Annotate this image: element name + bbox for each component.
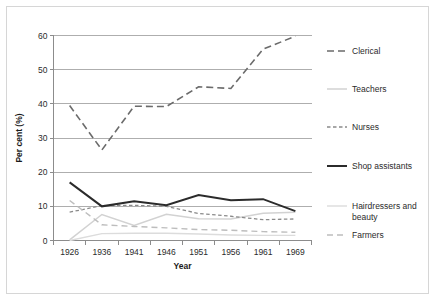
x-tick-label: 1936 — [92, 247, 111, 257]
x-tick-label: 1946 — [157, 247, 176, 257]
x-tick-label: 1926 — [60, 247, 79, 257]
x-axis-title: Year — [174, 261, 193, 271]
legend-label-teachers[interactable]: Teachers — [352, 84, 387, 94]
legend-label-hairdressers-and-beauty-line2[interactable]: beauty — [352, 212, 378, 222]
line-chart-plot: 0102030405060192619361941194619511956196… — [0, 0, 437, 302]
y-tick-label: 20 — [38, 167, 48, 177]
y-tick-label: 10 — [38, 201, 48, 211]
series-line-nurses — [70, 205, 296, 219]
legend-label-clerical[interactable]: Clerical — [352, 46, 380, 56]
legend-label-hairdressers-and-beauty[interactable]: Hairdressers and — [352, 201, 417, 211]
y-axis-title: Per cent (%) — [14, 113, 24, 162]
chart-figure: 0102030405060192619361941194619511956196… — [0, 0, 437, 302]
y-tick-label: 0 — [43, 236, 48, 246]
y-tick-label: 50 — [38, 65, 48, 75]
series-line-hairdressers-and-beauty — [70, 233, 296, 240]
x-tick-label: 1969 — [286, 247, 305, 257]
x-tick-label: 1956 — [221, 247, 240, 257]
x-tick-label: 1951 — [189, 247, 208, 257]
series-line-clerical — [70, 36, 296, 150]
legend-label-nurses[interactable]: Nurses — [352, 122, 379, 132]
legend-label-farmers[interactable]: Farmers — [352, 230, 384, 240]
x-tick-label: 1941 — [125, 247, 144, 257]
series-line-shop-assistants — [70, 182, 296, 211]
y-tick-label: 30 — [38, 133, 48, 143]
legend-label-shop-assistants[interactable]: Shop assistants — [352, 161, 412, 171]
x-tick-label: 1961 — [254, 247, 273, 257]
y-tick-label: 40 — [38, 99, 48, 109]
y-tick-label: 60 — [38, 31, 48, 41]
